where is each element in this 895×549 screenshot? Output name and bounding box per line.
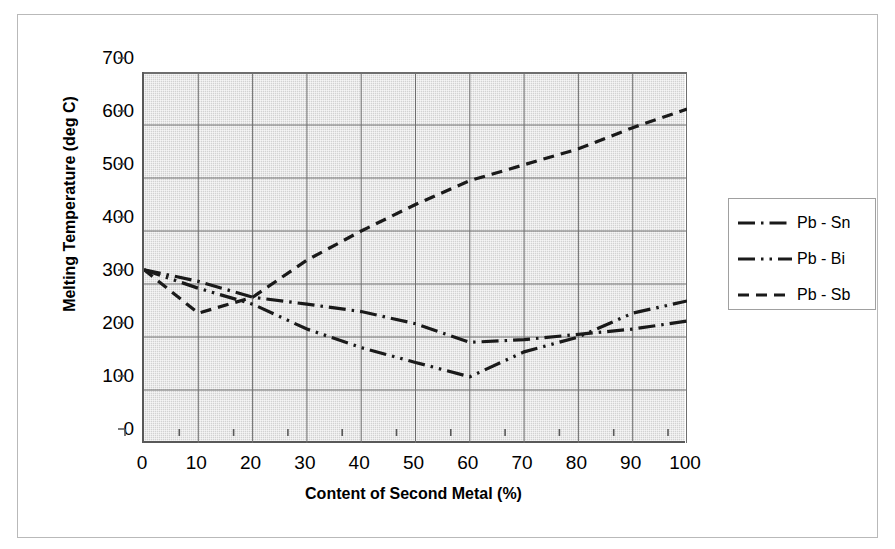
x-tick-label: 10: [166, 452, 226, 474]
y-tick-label: 400: [74, 207, 134, 226]
y-tick-label: 700: [74, 48, 134, 67]
chart-legend: Pb - SnPb - BiPb - Sb: [728, 198, 876, 310]
x-tick-label: 60: [438, 452, 498, 474]
legend-item-pb-bi[interactable]: Pb - Bi: [737, 249, 845, 269]
chart-frame: Melting Temperature (deg C) 010020030040…: [17, 14, 878, 538]
y-tick-label: 300: [74, 260, 134, 279]
chart-figure: Melting Temperature (deg C) 010020030040…: [0, 0, 895, 549]
plot-area: [142, 72, 685, 443]
x-axis-title: Content of Second Metal (%): [142, 485, 685, 503]
legend-item-label: Pb - Bi: [797, 250, 845, 268]
x-tick-label: 30: [275, 452, 335, 474]
legend-item-pb-sb[interactable]: Pb - Sb: [737, 285, 850, 305]
gridlines: [144, 72, 687, 443]
y-tick-label: 200: [74, 313, 134, 332]
y-tick-label: 500: [74, 154, 134, 173]
y-tick-label: 100: [74, 366, 134, 385]
x-tick-label: 90: [601, 452, 661, 474]
legend-item-label: Pb - Sn: [797, 214, 850, 232]
x-tick-label: 0: [112, 452, 172, 474]
legend-item-label: Pb - Sb: [797, 286, 850, 304]
x-tick-label: 70: [492, 452, 552, 474]
x-tick-label: 40: [329, 452, 389, 474]
legend-item-pb-sn[interactable]: Pb - Sn: [737, 213, 850, 233]
x-tick-label: 100: [655, 452, 715, 474]
x-axis-tick-labels: 0102030405060708090100: [142, 452, 685, 478]
y-tick-label: 0: [74, 419, 134, 438]
legend-line-sample-icon: [737, 288, 793, 302]
x-tick-label: 50: [384, 452, 444, 474]
plot-svg: [144, 72, 687, 443]
x-tick-label: 80: [546, 452, 606, 474]
y-tick-label: 600: [74, 101, 134, 120]
x-tick-label: 20: [221, 452, 281, 474]
legend-line-sample-icon: [737, 216, 793, 230]
legend-line-sample-icon: [737, 252, 793, 266]
